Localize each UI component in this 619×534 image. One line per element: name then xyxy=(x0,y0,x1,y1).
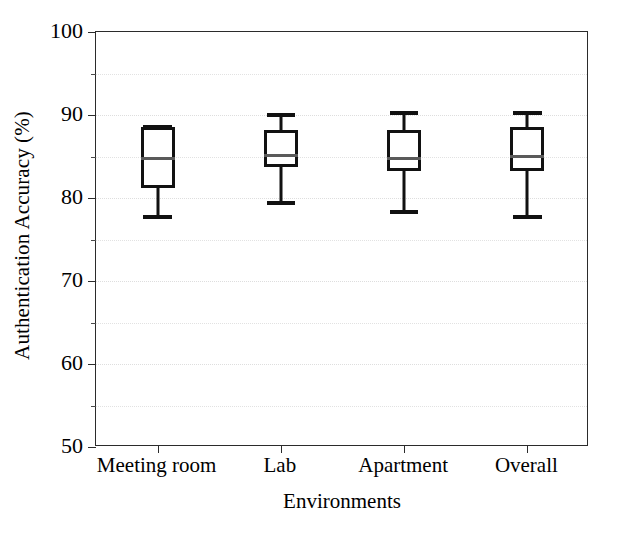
median-line xyxy=(141,157,175,160)
y-axis-tick xyxy=(88,364,96,365)
y-axis-tick-label: 50 xyxy=(13,435,83,457)
gridline-major xyxy=(96,115,587,116)
box-iqr xyxy=(264,130,298,167)
y-axis-tick xyxy=(88,447,96,448)
x-axis-tick xyxy=(281,445,282,453)
gridline-major xyxy=(96,281,587,282)
whisker-cap-lower xyxy=(513,215,542,219)
y-axis-tick-minor xyxy=(91,157,96,158)
whisker-cap-lower xyxy=(267,201,296,205)
whisker-cap-upper xyxy=(513,111,542,115)
whisker-cap-upper xyxy=(390,111,419,115)
boxplot-figure: Authentication Accuracy (%) 506070809010… xyxy=(0,0,619,534)
x-axis-tick xyxy=(404,445,405,453)
box-iqr xyxy=(387,130,421,171)
y-axis-tick-label: 90 xyxy=(13,103,83,125)
y-axis-tick xyxy=(88,32,96,33)
median-line xyxy=(510,155,544,158)
plot-area xyxy=(95,31,588,446)
y-axis-tick-label: 60 xyxy=(13,352,83,374)
y-axis-tick-minor xyxy=(91,323,96,324)
whisker-lower xyxy=(279,167,282,201)
whisker-lower xyxy=(156,188,159,215)
y-axis-tick xyxy=(88,198,96,199)
y-axis-tick-minor xyxy=(91,74,96,75)
median-line xyxy=(387,157,421,160)
y-axis-title-text: Authentication Accuracy (%) xyxy=(10,111,35,360)
x-axis-title: Environments xyxy=(95,489,589,514)
y-axis-tick xyxy=(88,281,96,282)
x-axis-tick xyxy=(527,445,528,453)
box-iqr xyxy=(510,127,544,171)
gridline-minor xyxy=(96,74,587,75)
gridline-major xyxy=(96,198,587,199)
y-axis-tick xyxy=(88,115,96,116)
x-axis-tick-label: Overall xyxy=(426,455,619,476)
gridline-major xyxy=(96,364,587,365)
x-axis-title-text: Environments xyxy=(283,489,401,513)
whisker-cap-lower xyxy=(390,210,419,214)
gridline-minor xyxy=(96,240,587,241)
whisker-cap-lower xyxy=(143,215,172,219)
y-axis-tick-label: 70 xyxy=(13,269,83,291)
x-axis-tick xyxy=(158,445,159,453)
gridline-minor xyxy=(96,406,587,407)
y-axis-tick-minor xyxy=(91,406,96,407)
y-axis-title: Authentication Accuracy (%) xyxy=(0,0,44,470)
whisker-cap-upper xyxy=(267,113,296,117)
gridline-minor xyxy=(96,323,587,324)
y-axis-tick-label: 80 xyxy=(13,186,83,208)
whisker-lower xyxy=(403,171,406,210)
median-line xyxy=(264,154,298,157)
y-axis-tick-minor xyxy=(91,240,96,241)
y-axis-tick-label: 100 xyxy=(13,20,83,42)
whisker-lower xyxy=(526,171,529,214)
